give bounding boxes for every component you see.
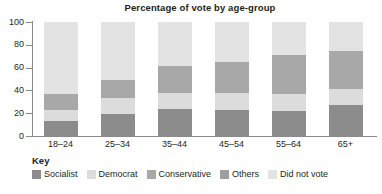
bar-stack bbox=[329, 22, 363, 136]
bar-stack bbox=[272, 22, 306, 136]
bar-segment bbox=[329, 89, 363, 105]
bar-group bbox=[101, 22, 135, 136]
bar-segment bbox=[158, 66, 192, 92]
x-axis-tick-label: 18–24 bbox=[31, 139, 91, 150]
y-axis-tick-label: 80 bbox=[0, 40, 24, 49]
bar-segment bbox=[215, 110, 249, 136]
legend-item: Did not vote bbox=[268, 169, 328, 179]
bar-segment bbox=[158, 93, 192, 109]
bar-segment bbox=[158, 109, 192, 136]
bar-segment bbox=[44, 121, 78, 136]
chart-figure: Percentage of vote by age-group 10080604… bbox=[0, 0, 382, 194]
legend-item: Socialist bbox=[32, 169, 78, 179]
legend-label: Others bbox=[232, 169, 259, 179]
bar-stack bbox=[215, 22, 249, 136]
bar-group bbox=[272, 22, 306, 136]
bar-segment bbox=[44, 110, 78, 121]
x-axis-tick-label: 35–44 bbox=[145, 139, 205, 150]
bar-segment bbox=[44, 22, 78, 94]
x-axis-tick-label: 45–54 bbox=[202, 139, 262, 150]
bar-segment bbox=[158, 22, 192, 66]
bar-segment bbox=[272, 111, 306, 136]
bar-stack bbox=[101, 22, 135, 136]
bar-segment bbox=[44, 94, 78, 110]
bar-segment bbox=[101, 98, 135, 114]
legend-swatch bbox=[87, 170, 96, 179]
chart-key: Key SocialistDemocratConservativeOthersD… bbox=[32, 155, 328, 179]
y-axis-tick-label: 20 bbox=[0, 109, 24, 118]
bar-segment bbox=[272, 55, 306, 94]
bar-segment bbox=[101, 114, 135, 136]
bar-segment bbox=[101, 80, 135, 98]
legend-item: Conservative bbox=[147, 169, 212, 179]
key-heading: Key bbox=[32, 155, 328, 166]
legend-label: Did not vote bbox=[280, 169, 328, 179]
bar-group bbox=[329, 22, 363, 136]
bar-segment bbox=[329, 22, 363, 51]
legend-swatch bbox=[32, 170, 41, 179]
bar-group bbox=[158, 22, 192, 136]
x-axis-tick-label: 55–64 bbox=[259, 139, 319, 150]
y-axis-tick-label: 0 bbox=[0, 132, 24, 141]
legend-label: Democrat bbox=[99, 169, 138, 179]
chart-title: Percentage of vote by age-group bbox=[40, 2, 360, 14]
legend-item: Democrat bbox=[87, 169, 138, 179]
bar-stack bbox=[44, 22, 78, 136]
bar-segment bbox=[215, 93, 249, 110]
legend-label: Socialist bbox=[44, 169, 78, 179]
x-axis-line bbox=[32, 136, 377, 137]
y-axis-tick-label: 100 bbox=[0, 18, 24, 27]
bar-segment bbox=[272, 22, 306, 55]
y-axis-tick-label: 40 bbox=[0, 86, 24, 95]
bar-segment bbox=[215, 62, 249, 93]
bar-group bbox=[44, 22, 78, 136]
bar-segment bbox=[215, 22, 249, 62]
bar-stack bbox=[158, 22, 192, 136]
y-axis-tick-label: 60 bbox=[0, 63, 24, 72]
legend-swatch bbox=[147, 170, 156, 179]
bar-segment bbox=[329, 51, 363, 90]
y-axis-tick bbox=[26, 136, 32, 137]
bar-group bbox=[215, 22, 249, 136]
legend-label: Conservative bbox=[159, 169, 212, 179]
x-axis-tick-label: 65+ bbox=[316, 139, 376, 150]
legend-swatch bbox=[268, 170, 277, 179]
legend-swatch bbox=[220, 170, 229, 179]
legend-items: SocialistDemocratConservativeOthersDid n… bbox=[32, 169, 328, 179]
bar-segment bbox=[329, 105, 363, 136]
legend-item: Others bbox=[220, 169, 259, 179]
plot-area bbox=[32, 22, 374, 136]
x-axis-tick-label: 25–34 bbox=[88, 139, 148, 150]
bar-segment bbox=[101, 22, 135, 80]
bar-segment bbox=[272, 94, 306, 111]
